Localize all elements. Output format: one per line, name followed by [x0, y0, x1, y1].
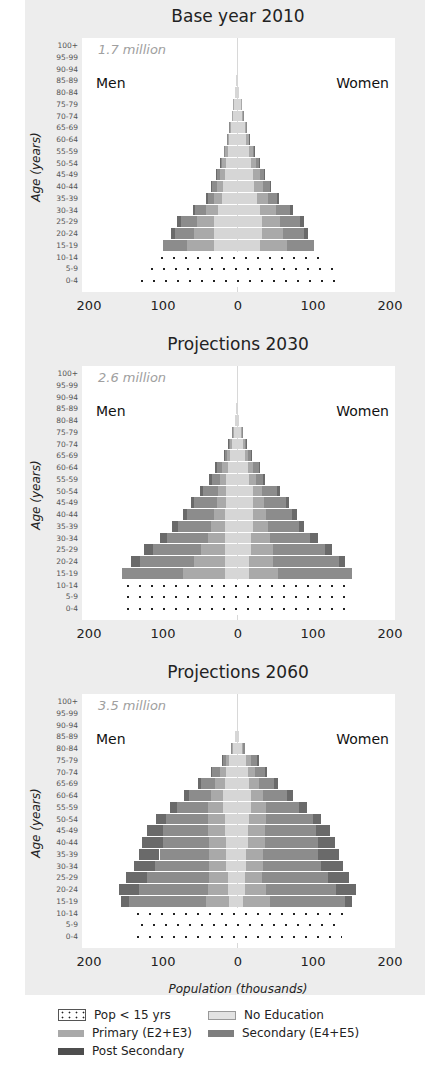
- bar-segment-under-15: [136, 275, 344, 287]
- age-tick-label: 50-54: [40, 814, 78, 826]
- bar-segment-women-post: [270, 181, 272, 192]
- bar-segment-men-sec: [163, 240, 186, 251]
- bar-segment-men-post: [191, 497, 194, 508]
- age-tick-label: 25-29: [40, 216, 78, 228]
- bar-segment-women-sec: [268, 193, 277, 204]
- bar-segment-men-post: [209, 474, 212, 485]
- bar-row: [82, 122, 395, 133]
- bar-segment-women-post: [259, 158, 260, 169]
- bar-segment-women-noedu: [237, 533, 251, 544]
- bar-segment-men-noedu: [223, 790, 237, 801]
- bar-segment-men-sec: [212, 767, 220, 778]
- bar-segment-men-sec: [187, 509, 213, 520]
- bar-segment-women-noedu: [237, 158, 251, 169]
- bar-segment-women-sec: [242, 427, 243, 438]
- age-tick-label: 80-84: [40, 87, 78, 99]
- bar-segment-women-post: [321, 861, 343, 872]
- age-tick-label: 5-9: [40, 591, 78, 603]
- x-axis-title: Population (thousands): [0, 982, 437, 996]
- bar-segment-women-noedu: [237, 87, 239, 98]
- age-tick-labels: 100+95-9990-9485-8980-8475-7970-7465-696…: [40, 696, 78, 943]
- bar-segment-women-noedu: [237, 837, 248, 848]
- primary-swatch-icon: [58, 1030, 84, 1037]
- bar-segment-men-prim: [194, 228, 213, 239]
- bar-row: [82, 544, 395, 555]
- bar-segment-men-sec: [217, 169, 220, 180]
- bar-segment-women-noedu: [237, 403, 238, 414]
- plot-area: 1.7 millionMenWomen: [82, 38, 395, 292]
- bar-segment-men-sec: [225, 450, 227, 461]
- bar-segment-women-noedu: [237, 497, 253, 508]
- bar-row: [82, 802, 395, 813]
- bar-segment-women-post: [257, 755, 259, 766]
- bar-segment-men-sec: [212, 474, 220, 485]
- bar-segment-men-sec: [194, 497, 217, 508]
- age-tick-label: 40-44: [40, 181, 78, 193]
- bar-row: [82, 474, 395, 485]
- bar-segment-men-post: [216, 169, 217, 180]
- x-tick-label: 0: [234, 626, 242, 641]
- age-tick-label: 55-59: [40, 802, 78, 814]
- bar-row: [82, 837, 395, 848]
- bar-segment-men-post: [228, 439, 229, 450]
- bar-segment-women-sec: [266, 884, 336, 895]
- age-tick-label: 5-9: [40, 263, 78, 275]
- x-tick-label: 100: [301, 954, 326, 969]
- bar-row: [82, 755, 395, 766]
- bar-segment-women-noedu: [237, 802, 251, 813]
- bar-segment-women-noedu: [237, 556, 249, 567]
- bar-segment-women-sec: [263, 790, 286, 801]
- bar-segment-men-prim: [206, 205, 218, 216]
- bar-segment-women-prim: [253, 497, 265, 508]
- bar-segment-women-noedu: [237, 181, 254, 192]
- age-tick-label: 40-44: [40, 837, 78, 849]
- pyramid-chart-1: Projections 2030Age (years)100+95-9990-9…: [0, 328, 437, 648]
- bar-row: [82, 392, 395, 403]
- chart-title: Projections 2030: [0, 334, 437, 354]
- age-tick-label: 40-44: [40, 509, 78, 521]
- men-label: Men: [96, 403, 126, 419]
- age-tick-label: 10-14: [40, 580, 78, 592]
- bar-segment-women-noedu: [237, 872, 245, 883]
- bar-segment-men-prim: [209, 872, 228, 883]
- bar-segment-men-prim: [206, 896, 229, 907]
- bar-segment-women-prim: [257, 193, 268, 204]
- bar-segment-men-noedu: [225, 169, 237, 180]
- legend-item-no-education: No Education: [208, 1008, 324, 1022]
- age-tick-label: 55-59: [40, 146, 78, 158]
- bar-segment-women-prim: [246, 861, 263, 872]
- bar-segment-men-post: [171, 228, 175, 239]
- bar-segment-men-prim: [211, 521, 225, 532]
- bar-segment-men-post: [215, 462, 217, 473]
- bar-segment-women-noedu: [237, 474, 249, 485]
- bar-segment-men-noedu: [218, 205, 237, 216]
- bar-segment-men-noedu: [229, 755, 237, 766]
- bar-row-child: [146, 263, 334, 275]
- post-secondary-swatch-icon: [58, 1048, 84, 1055]
- bar-segment-under-15: [122, 591, 351, 603]
- x-tick-label: 0: [234, 298, 242, 313]
- bar-segment-men-post: [170, 802, 178, 813]
- bar-segment-women-noedu: [237, 75, 238, 86]
- bar-segment-women-prim: [253, 486, 262, 497]
- bar-segment-women-post: [316, 825, 330, 836]
- x-tick-label: 200: [77, 954, 102, 969]
- bar-segment-men-post: [222, 755, 223, 766]
- bar-segment-women-prim: [254, 181, 263, 192]
- x-tick-label: 200: [378, 626, 403, 641]
- bar-segment-women-sec: [268, 521, 299, 532]
- age-tick-label: 0-4: [40, 931, 78, 943]
- bar-segment-under-15: [136, 919, 339, 931]
- bar-segment-men-post: [220, 158, 221, 169]
- legend-label: No Education: [244, 1008, 324, 1022]
- bar-segment-men-post: [200, 486, 203, 497]
- bar-segment-men-noedu: [225, 778, 237, 789]
- bar-segment-men-prim: [232, 111, 233, 122]
- bar-segment-women-noedu: [237, 134, 246, 145]
- bar-segment-women-sec: [246, 122, 247, 133]
- bar-segment-men-prim: [230, 439, 232, 450]
- bar-segment-men-prim: [215, 778, 224, 789]
- bar-segment-men-noedu: [226, 158, 237, 169]
- bar-segment-men-noedu: [228, 884, 237, 895]
- bar-segment-men-prim: [222, 158, 226, 169]
